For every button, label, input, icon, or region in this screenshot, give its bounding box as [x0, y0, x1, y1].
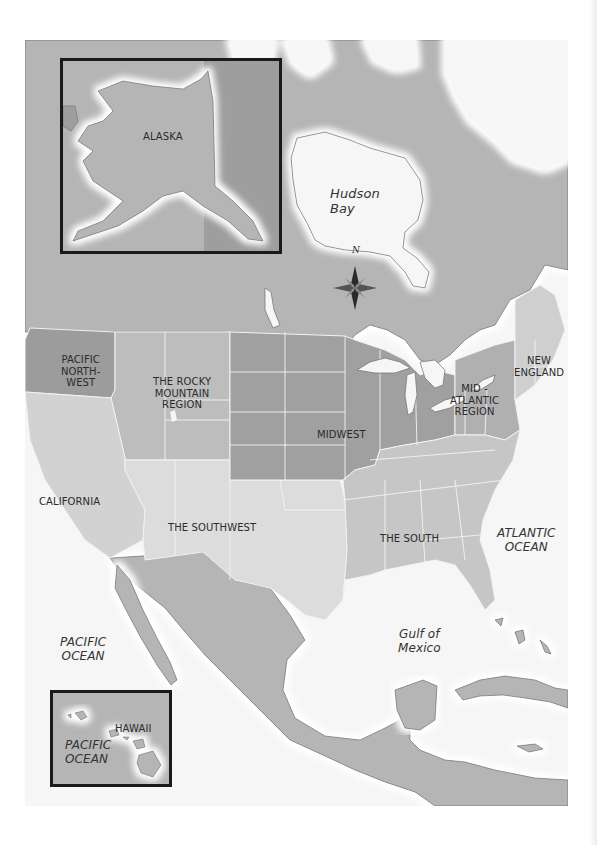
label-hawaii-pacific-ocean: PACIFICOCEAN — [65, 739, 111, 767]
label-mid-atlantic: MID -ATLANTICREGION — [450, 383, 499, 418]
usa-regions — [25, 285, 565, 620]
label-midwest: MIDWEST — [317, 429, 366, 441]
compass-north-label: N — [352, 245, 360, 255]
label-atlantic-ocean: ATLANTICOCEAN — [497, 527, 556, 555]
hawaii-inset: HAWAII PACIFICOCEAN — [50, 690, 172, 787]
alaska-inset: ALASKA — [60, 58, 282, 254]
label-pacific-ocean: PACIFICOCEAN — [60, 636, 106, 664]
label-new-england: NEWENGLAND — [514, 355, 564, 378]
label-hudson-bay: HudsonBay — [330, 187, 380, 217]
page-edge-shadow — [589, 0, 597, 845]
label-california: CALIFORNIA — [39, 496, 100, 508]
label-southwest: THE SOUTHWEST — [168, 522, 256, 534]
label-gulf-of-mexico: Gulf ofMexico — [398, 628, 441, 656]
label-alaska: ALASKA — [143, 131, 183, 143]
region-new-england — [515, 285, 565, 400]
label-hawaii: HAWAII — [115, 723, 152, 735]
label-south: THE SOUTH — [380, 533, 439, 545]
label-pacific-northwest: PACIFICNORTH-WEST — [61, 354, 100, 389]
map-frame: N PACIFICNORTH-WEST THE ROCKYMOUNTAINREG… — [25, 40, 568, 806]
label-rocky-mountain: THE ROCKYMOUNTAINREGION — [153, 376, 211, 411]
alaska-map — [63, 61, 279, 251]
caribbean-islands — [455, 618, 568, 752]
